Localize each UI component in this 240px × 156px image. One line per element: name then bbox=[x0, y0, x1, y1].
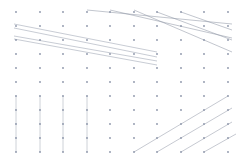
data-point bbox=[15, 95, 17, 97]
data-point bbox=[39, 123, 41, 125]
data-point bbox=[15, 109, 17, 111]
data-point bbox=[227, 81, 229, 83]
data-point bbox=[15, 151, 17, 153]
data-point bbox=[62, 11, 64, 13]
data-point bbox=[180, 53, 182, 55]
data-point bbox=[15, 25, 17, 27]
data-point bbox=[133, 11, 135, 13]
data-point bbox=[203, 109, 205, 111]
data-point bbox=[203, 81, 205, 83]
data-point bbox=[62, 25, 64, 27]
data-point bbox=[62, 95, 64, 97]
data-point bbox=[203, 123, 205, 125]
data-point bbox=[86, 151, 88, 153]
data-point bbox=[86, 81, 88, 83]
data-point bbox=[227, 25, 229, 27]
data-point bbox=[133, 123, 135, 125]
data-point bbox=[86, 137, 88, 139]
data-point bbox=[109, 151, 111, 153]
data-point bbox=[39, 95, 41, 97]
data-point bbox=[15, 53, 17, 55]
data-point bbox=[133, 109, 135, 111]
data-point bbox=[180, 81, 182, 83]
data-point bbox=[203, 151, 205, 153]
data-point bbox=[156, 11, 158, 13]
data-point bbox=[203, 53, 205, 55]
data-point bbox=[227, 109, 229, 111]
data-point bbox=[109, 109, 111, 111]
data-point bbox=[39, 39, 41, 41]
data-point bbox=[156, 109, 158, 111]
data-point bbox=[39, 11, 41, 13]
data-point bbox=[86, 25, 88, 27]
data-point bbox=[109, 123, 111, 125]
data-point bbox=[227, 39, 229, 41]
data-point bbox=[109, 39, 111, 41]
data-point bbox=[133, 95, 135, 97]
data-point bbox=[180, 109, 182, 111]
data-point bbox=[86, 11, 88, 13]
data-point bbox=[86, 39, 88, 41]
data-point bbox=[156, 67, 158, 69]
data-point bbox=[133, 25, 135, 27]
data-point bbox=[62, 151, 64, 153]
data-point bbox=[133, 137, 135, 139]
data-point bbox=[227, 123, 229, 125]
data-point bbox=[156, 39, 158, 41]
data-point bbox=[180, 39, 182, 41]
data-point bbox=[109, 81, 111, 83]
data-point bbox=[203, 25, 205, 27]
data-point bbox=[180, 95, 182, 97]
data-point bbox=[227, 137, 229, 139]
data-point bbox=[86, 109, 88, 111]
data-point bbox=[203, 137, 205, 139]
data-point bbox=[180, 151, 182, 153]
data-point bbox=[133, 81, 135, 83]
data-point bbox=[180, 123, 182, 125]
data-point bbox=[227, 11, 229, 13]
data-point bbox=[156, 151, 158, 153]
data-point bbox=[109, 11, 111, 13]
data-point bbox=[39, 151, 41, 153]
data-point bbox=[39, 53, 41, 55]
data-point bbox=[133, 67, 135, 69]
data-point bbox=[86, 67, 88, 69]
data-point bbox=[156, 81, 158, 83]
data-point bbox=[39, 25, 41, 27]
data-point bbox=[203, 11, 205, 13]
data-point bbox=[39, 67, 41, 69]
data-point bbox=[86, 123, 88, 125]
data-point bbox=[86, 53, 88, 55]
data-point bbox=[109, 137, 111, 139]
data-point bbox=[109, 53, 111, 55]
data-point bbox=[86, 95, 88, 97]
data-point bbox=[180, 11, 182, 13]
data-point bbox=[156, 95, 158, 97]
data-point bbox=[39, 137, 41, 139]
data-point bbox=[227, 95, 229, 97]
data-point bbox=[133, 151, 135, 153]
data-point bbox=[180, 137, 182, 139]
data-point bbox=[15, 11, 17, 13]
data-point bbox=[62, 109, 64, 111]
data-point bbox=[227, 53, 229, 55]
data-point bbox=[133, 53, 135, 55]
data-point bbox=[62, 39, 64, 41]
data-point bbox=[156, 137, 158, 139]
data-point bbox=[39, 81, 41, 83]
data-point bbox=[15, 123, 17, 125]
plot-svg bbox=[0, 0, 240, 156]
data-point bbox=[62, 53, 64, 55]
data-point bbox=[62, 67, 64, 69]
data-point bbox=[62, 81, 64, 83]
data-point bbox=[156, 53, 158, 55]
data-point bbox=[15, 39, 17, 41]
data-point bbox=[180, 25, 182, 27]
data-point bbox=[62, 137, 64, 139]
data-point bbox=[227, 151, 229, 153]
data-point bbox=[203, 39, 205, 41]
data-point bbox=[109, 95, 111, 97]
data-point bbox=[109, 25, 111, 27]
data-point bbox=[203, 95, 205, 97]
data-point bbox=[15, 81, 17, 83]
